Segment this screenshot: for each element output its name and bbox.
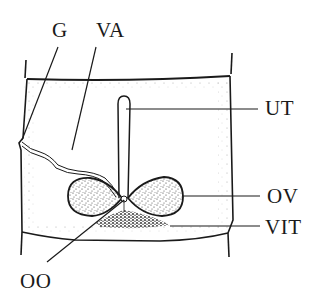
uterus [118,96,130,198]
label-vagina: VA [96,20,125,41]
label-uterus: UT [265,98,294,119]
label-ovary: OV [267,186,298,207]
anatomy-diagram [0,0,325,305]
label-vitellaria: VIT [265,217,302,238]
label-genital-pore: G [52,20,68,41]
label-ootype: OO [20,271,51,292]
